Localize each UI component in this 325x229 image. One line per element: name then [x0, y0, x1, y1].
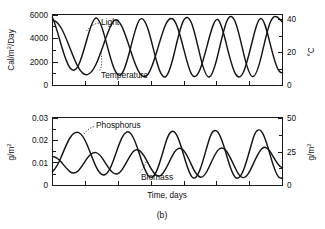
light-leader-line	[87, 23, 100, 31]
phosphorus-leader-line	[84, 127, 94, 135]
bottom-y2tick-50: 50	[287, 114, 297, 123]
svg-text:g/m2: g/m2	[6, 144, 16, 161]
top-right-major-ticks	[278, 20, 283, 86]
top-y2tick-40: 40	[287, 15, 297, 24]
figure-svg: 0 2000 4000 6000 0 20 40 Cal/m2/Day °C	[0, 0, 325, 229]
series-label-phosphorus: Phosphorus	[96, 120, 141, 130]
bottom-y2tick-0: 0	[287, 181, 292, 190]
top-ytick-6000: 6000	[30, 11, 49, 20]
top-y2-axis-title-text: °C	[307, 47, 316, 56]
svg-text:g/m2: g/m2	[306, 144, 316, 161]
top-ytick-0: 0	[43, 81, 48, 90]
top-panel: 0 2000 4000 6000 0 20 40 Cal/m2/Day °C	[6, 11, 316, 91]
top-y-axis-title: Cal/m2/Day	[6, 28, 16, 70]
bottom-y-axis-title-main: g/m	[7, 147, 16, 161]
series-label-light: Light	[101, 17, 120, 27]
top-ytick-4000: 4000	[30, 34, 49, 43]
series-label-temperature: Temperature	[101, 70, 148, 80]
top-x-ticks	[85, 81, 249, 86]
bottom-panel: 0 0.01 0.02 0.03 0 25 50 g/m2 g/m2	[6, 114, 316, 200]
bottom-y-axis-title: g/m2	[6, 144, 16, 161]
top-y-axis-title-tail: /Day	[7, 28, 16, 46]
bottom-y2-axis-title: g/m2	[306, 144, 316, 161]
bottom-y2-axis-title-sup: 2	[306, 144, 312, 147]
top-y-axis-title-main: Cal/m	[7, 49, 16, 71]
bottom-ytick-002: 0.02	[32, 136, 48, 145]
bottom-ytick-001: 0.01	[32, 159, 48, 168]
series-label-biomass: Biomass	[141, 172, 173, 182]
top-y2tick-20: 20	[287, 48, 297, 57]
bottom-ytick-003: 0.03	[32, 114, 48, 123]
bottom-y2-axis-title-main: g/m	[307, 147, 316, 161]
figure-caption: (b)	[157, 210, 168, 220]
bottom-x-ticks	[85, 181, 249, 186]
svg-text:Cal/m2/Day: Cal/m2/Day	[6, 28, 16, 70]
series-line-temperature	[53, 16, 283, 77]
top-y2-axis-title: °C	[307, 47, 316, 56]
bottom-y2tick-25: 25	[287, 148, 297, 157]
figure-container: 0 2000 4000 6000 0 20 40 Cal/m2/Day °C	[0, 0, 325, 229]
top-ytick-2000: 2000	[30, 58, 49, 67]
top-y2tick-0: 0	[287, 81, 292, 90]
bottom-y-axis-title-sup: 2	[6, 144, 12, 147]
bottom-x-axis-title: Time, days	[147, 191, 187, 200]
bottom-ytick-0: 0	[43, 181, 48, 190]
